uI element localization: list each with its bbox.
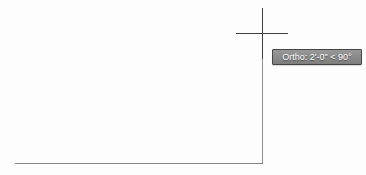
drawing-canvas[interactable]: Ortho: 2'-0" < 90°: [0, 0, 366, 175]
crosshair-cursor-vertical-arm: [262, 8, 263, 59]
drawn-line-horizontal[interactable]: [15, 163, 263, 164]
ortho-tracking-tooltip: Ortho: 2'-0" < 90°: [272, 49, 362, 65]
